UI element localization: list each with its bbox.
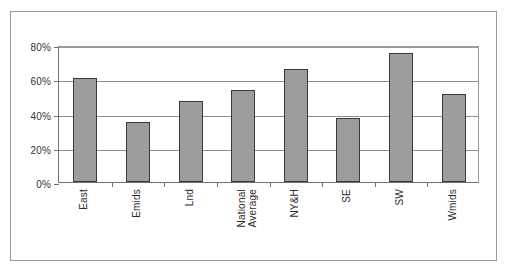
x-axis-label: East bbox=[78, 189, 89, 210]
bar bbox=[231, 90, 255, 182]
plot-area: 0%20%40%60%80% bbox=[58, 46, 479, 183]
chart-screenshot: 0%20%40%60%80% EastEmidsLndNational Aver… bbox=[0, 0, 510, 273]
x-axis-tick bbox=[322, 182, 323, 187]
x-axis-tick bbox=[270, 182, 271, 187]
chart-title-ghost bbox=[150, 0, 370, 9]
y-axis-tick-label: 80% bbox=[30, 42, 51, 53]
y-axis-tick bbox=[54, 184, 59, 185]
bar bbox=[179, 101, 203, 182]
x-axis-label: Lnd bbox=[184, 189, 195, 206]
bar bbox=[73, 78, 97, 182]
bar bbox=[284, 69, 308, 182]
x-axis-label: Emids bbox=[131, 189, 142, 218]
y-axis-tick-label: 0% bbox=[36, 179, 51, 190]
x-axis-tick bbox=[217, 182, 218, 187]
x-axis-tick bbox=[164, 182, 165, 187]
x-axis-tick bbox=[427, 182, 428, 187]
x-axis-label: Wmids bbox=[447, 189, 458, 221]
x-axis-label: SE bbox=[341, 189, 352, 203]
x-axis-tick bbox=[112, 182, 113, 187]
x-axis-tick bbox=[375, 182, 376, 187]
x-axis-label: National Average bbox=[236, 189, 258, 227]
bar bbox=[442, 94, 466, 182]
y-axis-tick-label: 60% bbox=[30, 76, 51, 87]
x-axis-label: NY&H bbox=[289, 189, 300, 218]
chart-frame: 0%20%40%60%80% EastEmidsLndNational Aver… bbox=[10, 11, 497, 261]
y-axis-tick-label: 20% bbox=[30, 144, 51, 155]
bars-layer bbox=[59, 47, 478, 182]
x-axis-label: SW bbox=[394, 189, 405, 206]
bar bbox=[126, 122, 150, 182]
x-axis-labels: EastEmidsLndNational AverageNY&HSESWWmid… bbox=[58, 189, 479, 269]
bar bbox=[336, 118, 360, 182]
bar bbox=[389, 53, 413, 182]
y-axis-tick-label: 40% bbox=[30, 110, 51, 121]
